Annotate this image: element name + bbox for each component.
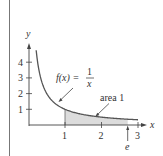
function-label-lhs: f(x) = [56,72,79,84]
x-axis-label: x [149,119,155,130]
y-tick-label-1: 1 [18,104,23,115]
function-label-pointer [60,88,73,101]
e-label: e [125,141,130,152]
area-label-pointer [97,104,109,116]
function-label-denominator: x [86,78,92,89]
y-axis-arrowhead-icon [27,43,31,49]
x-tick-label-1: 1 [62,130,67,141]
function-label-numerator: 1 [87,66,92,77]
y-tick-label-4: 4 [18,57,23,68]
y-tick-label-3: 3 [18,72,23,83]
e-pointer-arrowhead-icon [126,126,129,131]
x-axis-arrowhead-icon [141,123,147,127]
area-label: area 1 [100,92,124,103]
chart-figure: y x 4 3 2 1 1 2 3 e f(x) = 1 x area 1 [0,0,163,156]
x-tick-label-3: 3 [135,130,140,141]
x-tick-label-2: 2 [99,130,104,141]
y-tick-label-2: 2 [18,88,23,99]
y-axis-label: y [25,28,31,39]
